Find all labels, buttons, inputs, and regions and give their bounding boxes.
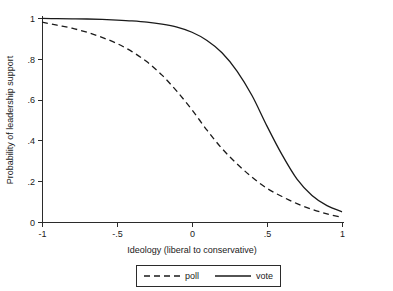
x-tick-label: -1: [38, 229, 46, 239]
x-axis-title: Ideology (liberal to conservative): [127, 245, 257, 255]
series-line-vote: [42, 18, 342, 211]
y-tick-label: .6: [27, 95, 35, 105]
legend-label-poll: poll: [185, 271, 199, 281]
x-axis-tick-marks: [43, 223, 343, 228]
probability-of-leadership-support-line-chart: 0.2.4.6.81 -1-.50.51 Probability of lead…: [0, 0, 393, 291]
series-line-poll: [42, 22, 342, 217]
y-tick-label: .4: [27, 136, 35, 146]
y-axis-title: Probability of leadership support: [5, 55, 15, 184]
y-tick-label: 0: [30, 218, 35, 228]
y-axis-tick-marks: [38, 19, 43, 223]
legend-label-vote: vote: [256, 271, 273, 281]
chart-legend: poll vote: [137, 266, 281, 287]
data-series-group: [42, 18, 342, 217]
y-tick-label: .8: [27, 55, 35, 65]
x-axis-tick-labels: -1-.50.51: [38, 229, 345, 239]
y-axis-tick-labels: 0.2.4.6.81: [27, 14, 35, 228]
x-tick-label: 0: [190, 229, 195, 239]
x-tick-label: -.5: [112, 229, 123, 239]
y-tick-label: 1: [30, 14, 35, 24]
chart-container: 0.2.4.6.81 -1-.50.51 Probability of lead…: [0, 0, 393, 291]
x-tick-label: .5: [264, 229, 272, 239]
y-tick-label: .2: [27, 177, 35, 187]
plot-area: [38, 16, 344, 227]
x-tick-label: 1: [340, 229, 345, 239]
